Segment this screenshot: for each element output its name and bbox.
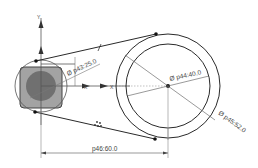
- tangent-constraint-icon: [98, 44, 101, 51]
- tangent-point[interactable]: [154, 32, 158, 36]
- x-axis-arrow-icon-2: [100, 84, 108, 89]
- y-axis-arrow-icon: [39, 20, 44, 28]
- outer-dim-leader: [125, 55, 215, 120]
- outer-circle-dimension[interactable]: Ø p45:52.0: [217, 109, 248, 135]
- tangent-point[interactable]: [153, 137, 157, 141]
- x-axis-label: X: [110, 84, 114, 90]
- tangent-point[interactable]: [34, 59, 38, 63]
- center-distance-dimension[interactable]: p46:60.0: [92, 145, 118, 153]
- sketch-canvas[interactable]: Y X X Ø p43:25.0 Ø p44:40.0 Ø p45:52.0 p…: [0, 0, 258, 168]
- x-axis-marker: X: [84, 84, 88, 90]
- inner-circle-dimension[interactable]: Ø p44:40.0: [169, 68, 203, 83]
- dim-arrow-left-icon: [41, 152, 46, 155]
- y-axis-arrow-icon-2: [39, 46, 44, 54]
- y-axis-label: Y: [37, 14, 41, 20]
- dim-arrow-right-icon: [163, 152, 168, 155]
- tangent-point[interactable]: [33, 110, 37, 114]
